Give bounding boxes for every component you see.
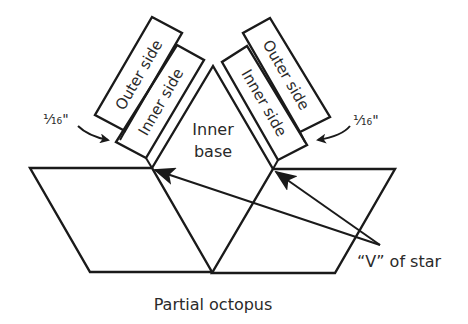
inner-base-label-2: base <box>194 142 232 161</box>
v-arrow-right <box>276 172 380 245</box>
left-diamond <box>30 168 212 272</box>
v-of-star-label: “V” of star <box>357 252 442 271</box>
left-gap-arrow <box>78 126 108 140</box>
right-gap-label: ¹⁄₁₆" <box>353 112 379 128</box>
diagram-caption: Partial octopus <box>154 295 273 314</box>
partial-octopus-diagram: Outer side Inner side Outer side Inner s… <box>0 0 468 324</box>
inner-base-label-1: Inner <box>192 120 234 139</box>
right-gap-arrow <box>318 126 350 140</box>
left-gap-label: ¹⁄₁₆" <box>43 111 69 127</box>
left-connector <box>146 158 152 168</box>
right-connector <box>273 160 278 169</box>
